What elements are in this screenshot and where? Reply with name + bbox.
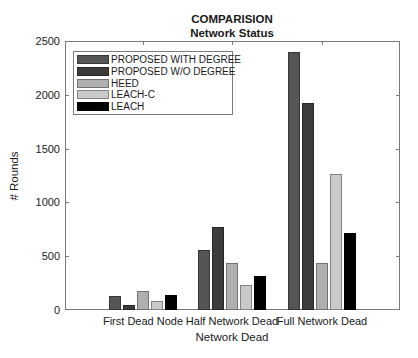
y-tick-mark [396, 256, 400, 257]
y-tick-mark [65, 256, 69, 257]
y-axis-label: # Rounds [8, 151, 20, 200]
legend-label: PROPOSED W/O DEGREE [111, 66, 235, 77]
x-tick-label: Full Network Dead [277, 315, 367, 327]
bar [151, 301, 164, 310]
legend-swatch [77, 90, 109, 99]
y-tick-label: 0 [20, 304, 60, 316]
y-tick-mark [396, 95, 400, 96]
y-tick-mark [65, 149, 69, 150]
y-tick-label: 1500 [20, 143, 60, 155]
legend: PROPOSED WITH DEGREEPROPOSED W/O DEGREEH… [73, 51, 233, 115]
legend-swatch [77, 102, 109, 111]
bar [302, 103, 315, 310]
y-tick-mark [396, 202, 400, 203]
bar [316, 263, 329, 310]
chart-subtitle: Network Status [182, 27, 282, 39]
legend-label: HEED [111, 78, 139, 89]
legend-item: HEED [77, 78, 139, 89]
bar [330, 174, 343, 310]
legend-item: LEACH-C [77, 89, 155, 100]
y-tick-label: 2500 [20, 35, 60, 47]
y-tick-mark [65, 202, 69, 203]
bar [288, 52, 301, 310]
legend-swatch [77, 55, 109, 64]
y-tick-mark [65, 95, 69, 96]
y-tick-label: 2000 [20, 89, 60, 101]
legend-swatch [77, 79, 109, 88]
x-tick-mark [143, 41, 144, 45]
x-tick-label: First Dead Node [103, 315, 183, 327]
x-tick-label: Half Network Dead [186, 315, 278, 327]
bar [240, 285, 253, 310]
bar [123, 305, 136, 310]
legend-item: PROPOSED WITH DEGREE [77, 54, 241, 65]
bar [109, 296, 122, 310]
bar [198, 250, 211, 310]
bar [226, 263, 239, 310]
bar [344, 233, 357, 310]
x-tick-mark [322, 41, 323, 45]
bar [212, 227, 225, 310]
y-tick-label: 1000 [20, 196, 60, 208]
legend-swatch [77, 67, 109, 76]
bar [165, 295, 178, 310]
y-tick-label: 500 [20, 250, 60, 262]
x-axis-label: Network Dead [196, 331, 269, 343]
bar [137, 291, 150, 310]
legend-label: PROPOSED WITH DEGREE [111, 54, 241, 65]
chart-title: COMPARISION [182, 13, 282, 25]
legend-item: PROPOSED W/O DEGREE [77, 66, 235, 77]
legend-label: LEACH [111, 101, 144, 112]
bar [254, 276, 267, 310]
y-tick-mark [396, 149, 400, 150]
legend-item: LEACH [77, 101, 144, 112]
legend-label: LEACH-C [111, 89, 155, 100]
x-tick-mark [232, 41, 233, 45]
